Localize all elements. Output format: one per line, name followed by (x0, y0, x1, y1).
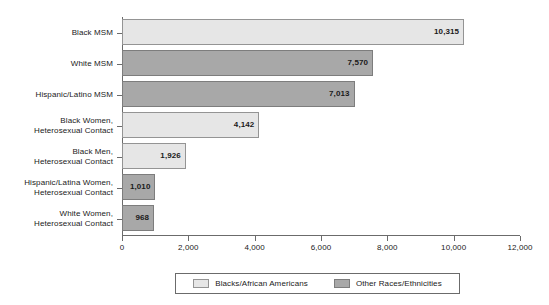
chart-legend: Blacks/African AmericansOther Races/Ethn… (175, 273, 460, 294)
x-axis-tick-label: 8,000 (377, 243, 398, 252)
y-axis-category-label: Black Men, Heterosexual Contact (0, 147, 113, 167)
bar-value-label: 1,926 (122, 143, 181, 169)
y-axis-tick (117, 95, 122, 96)
x-axis-tick-label: 10,000 (441, 243, 466, 252)
x-axis-tick (387, 236, 388, 241)
legend-label: Blacks/African Americans (215, 279, 308, 288)
bar-value-label: 7,570 (122, 50, 368, 76)
legend-item: Other Races/Ethnicities (334, 279, 442, 288)
bar-value-label: 10,315 (122, 19, 459, 45)
y-axis-tick (117, 188, 122, 189)
y-axis-tick (117, 126, 122, 127)
bar-row: 10,315 (122, 17, 520, 48)
y-axis-tick (117, 64, 122, 65)
y-axis-category-label: Black Women, Heterosexual Contact (0, 116, 113, 136)
x-axis-tick (255, 236, 256, 241)
bar-row: 7,013 (122, 79, 520, 110)
y-axis-tick (117, 219, 122, 220)
y-axis-category-label: White Women, Heterosexual Contact (0, 209, 113, 229)
y-axis-category-label: Black MSM (0, 28, 113, 38)
bar-row: 1,010 (122, 172, 520, 203)
legend-swatch-icon (334, 279, 350, 288)
x-axis-tick-label: 12,000 (507, 243, 532, 252)
legend-label: Other Races/Ethnicities (356, 279, 442, 288)
y-axis-category-label: Hispanic/Latina Women, Heterosexual Cont… (0, 178, 113, 198)
x-axis-tick-label: 4,000 (244, 243, 265, 252)
horizontal-bar-chart: 10,315Black MSM7,570White MSM7,013Hispan… (0, 0, 549, 305)
bar-row: 7,570 (122, 48, 520, 79)
bar-row: 1,926 (122, 141, 520, 172)
x-axis-tick (520, 236, 521, 241)
bar-value-label: 1,010 (122, 174, 150, 200)
x-axis-tick-label: 2,000 (178, 243, 199, 252)
y-axis-category-label: Hispanic/Latino MSM (0, 90, 113, 100)
x-axis-tick (122, 236, 123, 241)
x-axis-tick-label: 0 (120, 243, 125, 252)
legend-swatch-icon (193, 279, 209, 288)
y-axis-tick (117, 33, 122, 34)
x-axis-tick (188, 236, 189, 241)
x-axis-tick-label: 6,000 (311, 243, 332, 252)
bar-value-label: 968 (122, 205, 149, 231)
legend-item: Blacks/African Americans (193, 279, 308, 288)
bar-row: 968 (122, 203, 520, 234)
y-axis-category-label: White MSM (0, 59, 113, 69)
x-axis-tick (454, 236, 455, 241)
x-axis-tick (321, 236, 322, 241)
bar-value-label: 7,013 (122, 81, 350, 107)
bar-row: 4,142 (122, 110, 520, 141)
y-axis-tick (117, 157, 122, 158)
bar-value-label: 4,142 (122, 112, 254, 138)
